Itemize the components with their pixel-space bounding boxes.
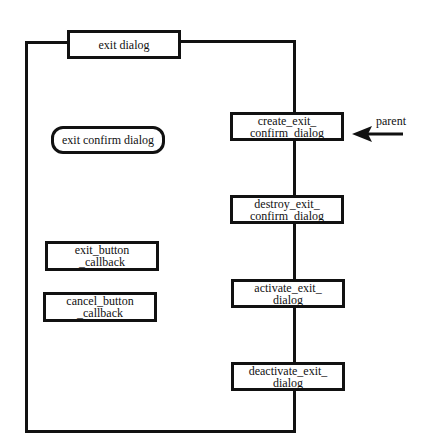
exit-dialog-box: exit dialog	[67, 30, 181, 59]
activate-exit-dialog-box: activate_exit_ dialog	[231, 279, 345, 308]
frame-bottom-line	[25, 430, 296, 433]
exit-button-callback-box: exit_button _callback	[45, 241, 159, 271]
frame-left-line	[25, 41, 28, 433]
create-exit-confirm-dialog-box: create_exit_ confirm_dialog	[230, 112, 344, 141]
deactivate-exit-dialog-box: deactivate_exit_ dialog	[231, 362, 345, 391]
destroy-exit-confirm-dialog-box: destroy_exit_ confirm_dialog	[230, 195, 344, 224]
parent-arrow-icon	[350, 124, 410, 144]
exit-confirm-dialog-widget: exit confirm dialog	[51, 126, 165, 154]
frame-top-left-line	[25, 41, 70, 44]
cancel-button-callback-box: cancel_button _callback	[43, 292, 157, 322]
frame-top-right-line	[178, 40, 296, 43]
